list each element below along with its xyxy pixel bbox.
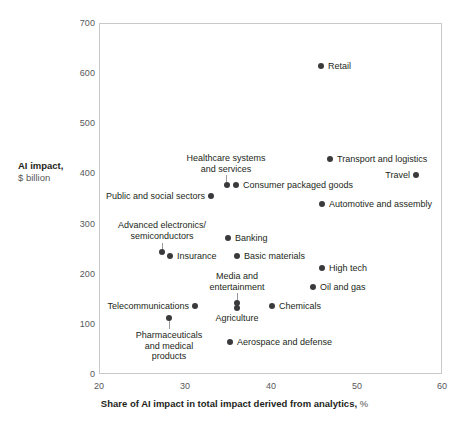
label-chemicals: Chemicals (279, 301, 321, 312)
y-tick-500: 500 (55, 118, 95, 128)
y-tick-200: 200 (55, 269, 95, 279)
data-point-retail[interactable] (318, 63, 324, 69)
label-advanced-electronics-line1: Advanced electronics/ (118, 220, 206, 230)
data-point-public-and-social-sectors[interactable] (208, 193, 214, 199)
data-point-aerospace-and-defense[interactable] (227, 339, 233, 345)
x-tick-50: 50 (342, 381, 372, 391)
label-healthcare-line1: Healthcare systems (186, 153, 265, 163)
data-point-healthcare-systems-and-services[interactable] (224, 182, 230, 188)
label-high-tech: High tech (329, 263, 367, 274)
data-point-advanced-electronics-semiconductors[interactable] (159, 249, 165, 255)
label-media-line2: entertainment (209, 282, 264, 292)
x-axis-title-unit: % (360, 398, 368, 409)
y-tick-600: 600 (55, 68, 95, 78)
label-pharma-line3: products (152, 351, 187, 361)
label-aerospace-and-defense: Aerospace and defense (237, 337, 332, 348)
data-point-insurance[interactable] (167, 253, 173, 259)
x-axis-title-text: Share of AI impact in total impact deriv… (101, 398, 360, 409)
label-media-and-entertainment: Media andentertainment (183, 271, 291, 292)
label-transport-and-logistics: Transport and logistics (337, 154, 427, 165)
y-axis-title-line1: AI impact, (18, 160, 92, 172)
label-advanced-electronics-semiconductors: Advanced electronics/semiconductors (96, 220, 228, 241)
y-tick-300: 300 (55, 219, 95, 229)
y-axis-title: AI impact, $ billion (18, 160, 92, 184)
data-point-high-tech[interactable] (319, 265, 325, 271)
data-point-consumer-packaged-goods[interactable] (233, 182, 239, 188)
data-point-chemicals[interactable] (269, 303, 275, 309)
x-tick-40: 40 (256, 381, 286, 391)
label-travel: Travel (350, 170, 410, 181)
label-retail: Retail (328, 61, 351, 72)
chart-canvas: 700 600 500 400 300 200 100 0 20 30 40 5… (0, 0, 469, 421)
y-tick-700: 700 (55, 18, 95, 28)
data-point-pharmaceuticals-and-medical-products[interactable] (166, 315, 172, 321)
data-point-automotive-and-assembly[interactable] (319, 201, 325, 207)
label-pharma-line2: and medical (145, 341, 194, 351)
label-healthcare-line2: and services (201, 164, 252, 174)
leader-line-healthcare (226, 175, 227, 182)
data-point-travel[interactable] (413, 172, 419, 178)
label-media-line1: Media and (216, 271, 258, 281)
data-point-agriculture[interactable] (234, 305, 240, 311)
y-tick-100: 100 (55, 319, 95, 329)
label-pharmaceuticals-and-medical-products: Pharmaceuticalsand medicalproducts (112, 330, 226, 362)
y-tick-0: 0 (55, 369, 95, 379)
data-point-basic-materials[interactable] (234, 253, 240, 259)
label-pharma-line1: Pharmaceuticals (136, 330, 203, 340)
label-consumer-packaged-goods: Consumer packaged goods (243, 180, 353, 191)
data-point-transport-and-logistics[interactable] (327, 156, 333, 162)
label-basic-materials: Basic materials (244, 251, 305, 262)
x-axis-title: Share of AI impact in total impact deriv… (0, 398, 469, 409)
x-tick-60: 60 (427, 381, 457, 391)
x-tick-30: 30 (170, 381, 200, 391)
data-point-telecommunications[interactable] (192, 303, 198, 309)
data-point-oil-and-gas[interactable] (310, 284, 316, 290)
label-banking: Banking (235, 233, 268, 244)
label-advanced-electronics-line2: semiconductors (130, 231, 193, 241)
x-tick-20: 20 (84, 381, 114, 391)
label-oil-and-gas: Oil and gas (320, 282, 366, 293)
label-automotive-and-assembly: Automotive and assembly (329, 199, 432, 210)
leader-line-pharmaceuticals (169, 321, 170, 329)
label-healthcare-systems-and-services: Healthcare systemsand services (152, 153, 300, 174)
label-agriculture: Agriculture (186, 313, 288, 324)
label-telecommunications: Telecommunications (89, 301, 189, 312)
y-axis-title-line2: $ billion (18, 172, 92, 184)
label-public-and-social-sectors: Public and social sectors (103, 191, 205, 202)
label-insurance: Insurance (177, 251, 217, 262)
